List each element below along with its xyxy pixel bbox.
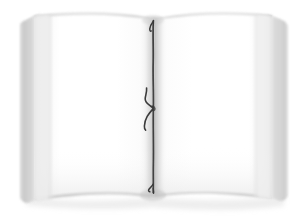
open-book-image: [0, 0, 305, 222]
left-page: [34, 12, 152, 201]
right-page: [155, 12, 272, 199]
book-photo-scene: A photograph of an open book with two bl…: [0, 0, 305, 222]
cord-bottom-tip: [153, 189, 154, 194]
